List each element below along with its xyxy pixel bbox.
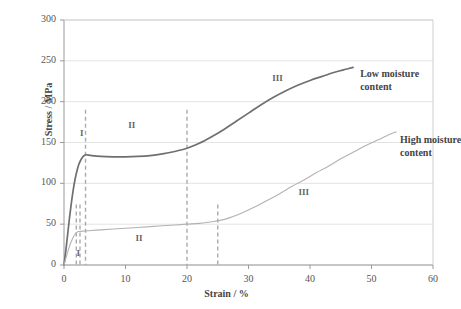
y-tick-label-200: 200 (22, 95, 56, 106)
annotation-low-moisture: Low moisturecontent (360, 67, 419, 93)
region-label-high-III: III (294, 187, 314, 197)
annotation-line: content (400, 146, 461, 159)
x-tick-label-20: 20 (172, 273, 202, 284)
x-tick-label-30: 30 (234, 273, 264, 284)
x-tick-label-10: 10 (111, 273, 141, 284)
series-line-low-moisture (64, 67, 353, 265)
region-label-high-I: I (68, 248, 88, 258)
x-tick-label-60: 60 (418, 273, 448, 284)
y-tick-label-150: 150 (22, 136, 56, 147)
x-tick-label-40: 40 (295, 273, 325, 284)
region-label-low-III: III (267, 73, 287, 83)
x-tick-label-0: 0 (49, 273, 79, 284)
annotation-line: Low moisture (360, 67, 419, 80)
annotation-line: High moisture (400, 133, 461, 146)
x-tick-label-50: 50 (357, 273, 387, 284)
y-tick-label-100: 100 (22, 176, 56, 187)
x-axis-title: Strain / % (0, 288, 453, 299)
y-tick-label-250: 250 (22, 54, 56, 65)
axis-ticks (60, 20, 433, 269)
region-label-low-I: I (72, 128, 92, 138)
y-tick-label-50: 50 (22, 217, 56, 228)
y-tick-label-0: 0 (22, 258, 56, 269)
annotation-line: content (360, 80, 419, 93)
y-tick-label-300: 300 (22, 13, 56, 24)
series-line-high-moisture (64, 132, 396, 265)
region-label-high-II: II (129, 233, 149, 243)
annotation-high-moisture: High moisturecontent (400, 133, 461, 159)
series-curves (64, 67, 396, 265)
region-label-low-II: II (122, 120, 142, 130)
y-axis-title: Stress / MPa (43, 50, 54, 170)
